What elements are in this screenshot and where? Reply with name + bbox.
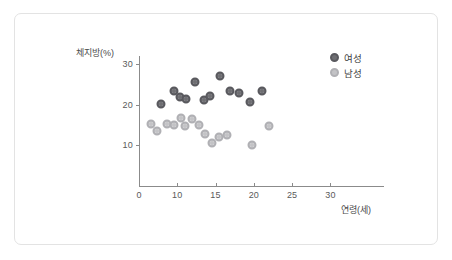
x-axis-tick-label: 25 — [287, 190, 297, 200]
y-axis-tick-label: 30 — [119, 59, 133, 69]
legend-item-female: 여성 — [330, 50, 402, 65]
data-point-male — [194, 120, 203, 129]
data-point-male — [265, 121, 274, 130]
x-axis-tick-label: 0 — [136, 190, 141, 200]
x-axis-tick — [330, 183, 331, 187]
y-axis-tick-label: 10 — [119, 140, 133, 150]
data-point-male — [200, 130, 209, 139]
x-axis-tick-label: 10 — [172, 190, 182, 200]
x-axis-tick-label: 30 — [325, 190, 335, 200]
data-point-male — [180, 122, 189, 131]
y-axis-tick — [136, 145, 140, 146]
legend-item-label: 여성 — [344, 51, 362, 65]
data-point-male — [223, 130, 232, 139]
x-axis-tick — [177, 183, 178, 187]
y-axis-title: 체지방(%) — [76, 46, 114, 59]
x-axis-tick — [292, 183, 293, 187]
data-point-female — [206, 91, 215, 100]
data-point-male — [153, 127, 162, 136]
legend: 여성남성 — [330, 50, 402, 80]
data-point-female — [226, 86, 235, 95]
x-axis-tick — [254, 183, 255, 187]
legend-item-male: 남성 — [330, 65, 402, 80]
x-axis-tick — [216, 183, 217, 187]
y-axis-line — [139, 56, 140, 187]
data-point-female — [157, 99, 166, 108]
y-axis-tick-label: 20 — [119, 100, 133, 110]
legend-marker-icon — [330, 68, 339, 77]
x-axis-line — [139, 186, 384, 187]
data-point-female — [181, 95, 190, 104]
data-point-male — [248, 141, 257, 150]
x-axis-tick-label: 20 — [249, 190, 259, 200]
data-point-female — [190, 77, 199, 86]
legend-item-label: 남성 — [344, 66, 362, 80]
x-axis-title: 연령(세) — [341, 203, 371, 216]
data-point-female — [246, 97, 255, 106]
scatter-plot: 체지방(%) 연령(세) 01015202530 102030 여성남성 — [0, 0, 452, 260]
y-axis-tick — [136, 64, 140, 65]
y-axis-tick — [136, 105, 140, 106]
legend-marker-icon — [330, 53, 339, 62]
data-point-male — [170, 120, 179, 129]
data-point-female — [257, 86, 266, 95]
x-axis-tick — [139, 183, 140, 187]
data-point-female — [216, 72, 225, 81]
data-point-female — [235, 88, 244, 97]
x-axis-tick-label: 15 — [210, 190, 220, 200]
